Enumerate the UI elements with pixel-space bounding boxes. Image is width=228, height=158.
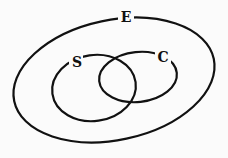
set-e-label: E (121, 9, 132, 25)
set-e: E (2, 0, 226, 158)
set-s-ellipse (48, 49, 140, 126)
venn-diagram: E S C (0, 0, 228, 158)
set-e-ellipse (2, 0, 226, 158)
set-c-label: C (157, 49, 168, 65)
set-s: S (48, 49, 140, 126)
set-s-label: S (72, 54, 82, 70)
